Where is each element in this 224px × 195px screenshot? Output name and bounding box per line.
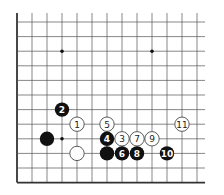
black-stone-10: 10 bbox=[160, 146, 174, 160]
move-number-label: 1 bbox=[74, 120, 80, 130]
white-stone-5: 5 bbox=[100, 117, 114, 131]
black-stone-icon bbox=[40, 132, 54, 146]
white-stone-icon bbox=[70, 146, 84, 160]
star-point-icon bbox=[60, 137, 64, 141]
move-number-label: 11 bbox=[176, 120, 187, 130]
black-stone bbox=[40, 132, 54, 146]
white-stone-1: 1 bbox=[70, 117, 84, 131]
star-point-icon bbox=[60, 49, 64, 53]
white-stone-7: 7 bbox=[130, 132, 144, 146]
move-number-label: 8 bbox=[134, 149, 140, 159]
white-stone-3: 3 bbox=[115, 132, 129, 146]
go-board: 2151143796810 bbox=[0, 0, 224, 195]
black-stone-4: 4 bbox=[100, 132, 114, 146]
star-point-icon bbox=[150, 49, 154, 53]
black-stone-6: 6 bbox=[115, 146, 129, 160]
move-number-label: 5 bbox=[104, 120, 110, 130]
white-stone-11: 11 bbox=[175, 117, 189, 131]
black-stone-icon bbox=[100, 146, 114, 160]
move-number-label: 10 bbox=[161, 149, 174, 159]
move-number-label: 7 bbox=[134, 134, 140, 144]
black-stone-2: 2 bbox=[55, 102, 69, 116]
move-number-label: 3 bbox=[119, 134, 125, 144]
white-stone bbox=[70, 146, 84, 160]
black-stone bbox=[100, 146, 114, 160]
move-number-label: 6 bbox=[119, 149, 125, 159]
white-stone-9: 9 bbox=[145, 132, 159, 146]
move-number-label: 2 bbox=[59, 105, 65, 115]
move-number-label: 4 bbox=[104, 134, 110, 144]
move-number-label: 9 bbox=[149, 134, 155, 144]
black-stone-8: 8 bbox=[130, 146, 144, 160]
